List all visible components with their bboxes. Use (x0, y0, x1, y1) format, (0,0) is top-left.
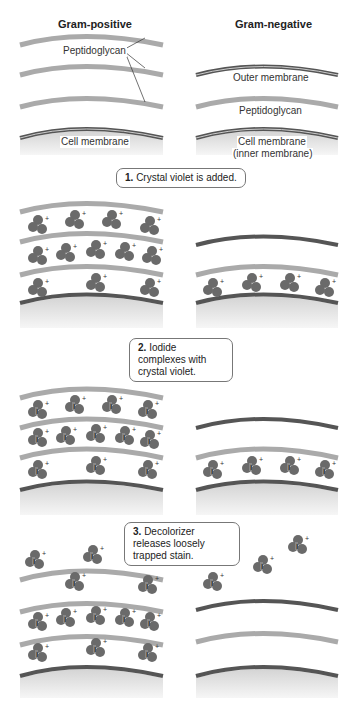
panel-step2 (20, 389, 338, 515)
gram-negative-title: Gram-negative (235, 18, 312, 30)
peptidoglycan-label-right: Peptidoglycan (238, 105, 303, 117)
step-2-number: 2. (138, 342, 146, 353)
inner-membrane-label: (inner membrane) (232, 148, 313, 160)
gram-positive-title: Gram-positive (58, 18, 132, 30)
cell-membrane-label-right: Cell membrane (237, 136, 307, 148)
panel-step1 (20, 204, 338, 329)
peptidoglycan-label-left: Peptidoglycan (62, 45, 127, 57)
step-3-number: 3. (133, 526, 141, 537)
step-2-text: Iodide complexes with crystal violet. (138, 342, 206, 377)
step-1-text: Crystal violet is added. (136, 172, 237, 183)
step-2-box: 2. Iodide complexes with crystal violet. (129, 338, 233, 382)
outer-membrane-label: Outer membrane (232, 72, 310, 84)
step-1-number: 1. (125, 172, 133, 183)
cell-membrane-label-left: Cell membrane (60, 136, 130, 148)
step-3-text: Decolorizer releases loosely trapped sta… (133, 526, 205, 561)
step-1-box: 1. Crystal violet is added. (116, 168, 246, 188)
step-3-box: 3. Decolorizer releases loosely trapped … (124, 522, 240, 566)
